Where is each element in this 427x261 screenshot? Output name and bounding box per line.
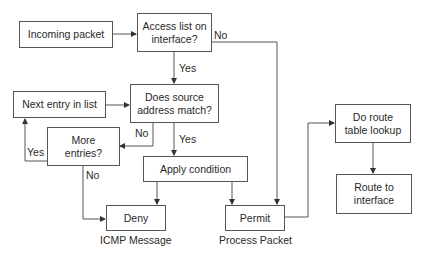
- permit-node: Permit: [225, 205, 285, 231]
- next-entry-node: Next entry in list: [13, 91, 106, 118]
- deny-node: Deny: [106, 205, 166, 231]
- match-no-label: No: [135, 127, 148, 139]
- source-match-node: Does source address match?: [130, 84, 219, 123]
- route-interface-node: Route to interface: [336, 174, 412, 214]
- access-list-label: Access list on interface?: [142, 20, 207, 46]
- incoming-packet-node: Incoming packet: [19, 21, 113, 48]
- permit-label: Permit: [240, 212, 270, 225]
- match-yes-label: Yes: [179, 133, 196, 145]
- more-entries-label: More entries?: [60, 134, 107, 160]
- route-lookup-node: Do route table lookup: [335, 104, 411, 143]
- more-entries-node: More entries?: [47, 127, 120, 166]
- apply-condition-node: Apply condition: [143, 156, 248, 182]
- access-no-label: No: [214, 29, 227, 41]
- route-lookup-label: Do route table lookup: [344, 111, 402, 137]
- apply-condition-label: Apply condition: [160, 163, 231, 176]
- more-no-label: No: [86, 169, 99, 181]
- icmp-message-caption: ICMP Message: [100, 234, 172, 246]
- access-yes-label: Yes: [179, 62, 196, 74]
- access-list-node: Access list on interface?: [137, 13, 212, 52]
- process-packet-caption: Process Packet: [219, 234, 292, 246]
- deny-label: Deny: [124, 212, 149, 225]
- next-entry-label: Next entry in list: [22, 98, 97, 111]
- route-interface-label: Route to interface: [347, 181, 401, 207]
- more-yes-label: Yes: [27, 146, 44, 158]
- incoming-packet-label: Incoming packet: [28, 28, 104, 41]
- source-match-label: Does source address match?: [137, 91, 212, 117]
